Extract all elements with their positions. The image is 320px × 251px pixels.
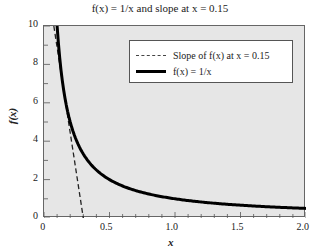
- y-tick-label: 2: [33, 172, 38, 183]
- x-tick-label: 0: [40, 221, 45, 232]
- y-axis-label: f(x): [6, 108, 18, 125]
- y-tick-label: 6: [33, 95, 38, 106]
- chart-title: f(x) = 1/x and slope at x = 0.15: [0, 2, 320, 14]
- y-tick-label: 10: [28, 18, 38, 29]
- legend-item-slope: Slope of f(x) at x = 0.15: [136, 48, 269, 62]
- legend-item-fx: f(x) = 1/x: [136, 64, 211, 78]
- y-tick-label: 0: [33, 210, 38, 221]
- x-tick-label: 1.5: [231, 221, 244, 232]
- solid-line-icon: [136, 70, 166, 73]
- legend-label-fx: f(x) = 1/x: [173, 66, 211, 77]
- y-tick-label: 4: [33, 133, 38, 144]
- x-axis-label: x: [168, 236, 174, 248]
- legend-label-slope: Slope of f(x) at x = 0.15: [173, 50, 269, 61]
- dashed-line-icon: [136, 55, 166, 56]
- y-tick-label: 8: [33, 56, 38, 67]
- x-tick-label: 2.0: [297, 221, 310, 232]
- x-tick-label: 0.5: [100, 221, 113, 232]
- x-tick-label: 1.0: [166, 221, 179, 232]
- legend: Slope of f(x) at x = 0.15 f(x) = 1/x: [129, 40, 293, 83]
